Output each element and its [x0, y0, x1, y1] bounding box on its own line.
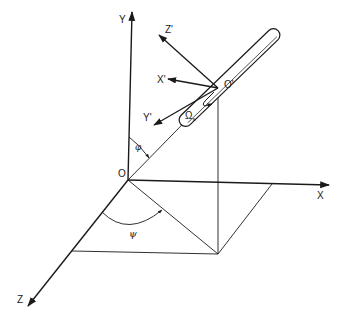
y-axis: [128, 12, 132, 180]
coordinate-diagram: Y X Z O O' Z' X' Y' φ ψ Ωs: [0, 0, 343, 322]
label-y-prime: Y': [143, 112, 152, 123]
psi-arc: [102, 210, 162, 225]
label-z-prime: Z': [165, 24, 173, 35]
diagram-canvas: Y X Z O O' Z' X' Y' φ ψ Ωs: [0, 0, 343, 322]
label-z: Z: [17, 294, 23, 305]
label-x: X: [317, 190, 324, 201]
label-body-origin: O': [224, 79, 234, 90]
label-phi: φ: [135, 142, 142, 152]
x-prime-axis: [168, 79, 218, 88]
z-axis: [28, 180, 128, 306]
projection-line-z-side: [72, 251, 218, 254]
projection-diagonal: [128, 180, 218, 254]
label-x-prime: X': [157, 74, 166, 85]
x-axis: [128, 180, 329, 185]
label-psi: ψ: [129, 228, 137, 239]
projection-line-x-side: [218, 184, 272, 254]
omega-subscript: s: [192, 116, 195, 122]
z-prime-axis: [159, 35, 218, 88]
label-origin: O: [118, 168, 126, 179]
label-y: Y: [119, 14, 126, 25]
